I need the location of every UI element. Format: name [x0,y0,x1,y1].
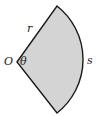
vertex-label: O [4,55,13,68]
radius-label: r [27,22,33,35]
arc-label: s [87,54,93,67]
sector-diagram: O θ r s [0,0,101,116]
angle-label: θ [20,55,27,68]
